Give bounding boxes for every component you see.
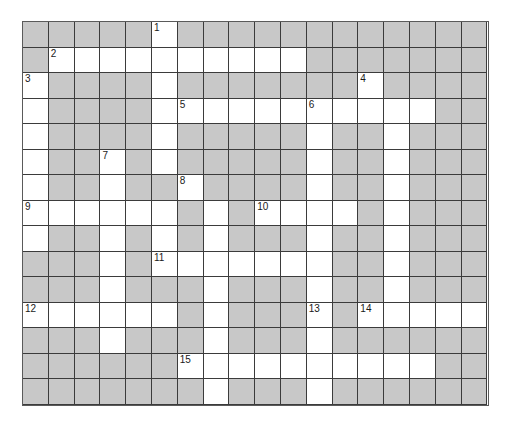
grid-cell-open[interactable] — [151, 226, 177, 252]
grid-cell-open[interactable] — [409, 353, 435, 379]
grid-cell-open[interactable] — [229, 353, 255, 379]
grid-cell-open[interactable]: 11 — [151, 251, 177, 277]
grid-cell-open[interactable] — [100, 200, 126, 226]
crossword-grid[interactable]: 123456789101112131415 — [22, 21, 487, 405]
grid-cell-open[interactable] — [151, 73, 177, 99]
grid-cell-open[interactable] — [409, 302, 435, 328]
grid-cell-open[interactable] — [74, 200, 100, 226]
grid-cell-open[interactable] — [306, 328, 332, 354]
grid-cell-open[interactable] — [177, 251, 203, 277]
grid-cell-open[interactable] — [255, 251, 281, 277]
grid-cell-open[interactable] — [306, 200, 332, 226]
grid-cell-open[interactable]: 4 — [358, 73, 384, 99]
grid-cell-open[interactable] — [280, 47, 306, 73]
grid-cell-open[interactable] — [255, 47, 281, 73]
grid-cell-open[interactable] — [151, 302, 177, 328]
grid-cell-open[interactable] — [384, 277, 410, 303]
grid-cell-open[interactable] — [23, 149, 49, 175]
grid-cell-open[interactable] — [151, 47, 177, 73]
grid-cell-open[interactable] — [151, 149, 177, 175]
grid-cell-open[interactable] — [203, 200, 229, 226]
grid-cell-open[interactable] — [384, 124, 410, 150]
grid-cell-open[interactable] — [384, 353, 410, 379]
grid-cell-open[interactable] — [74, 47, 100, 73]
grid-cell-open[interactable] — [306, 379, 332, 405]
grid-cell-open[interactable]: 6 — [306, 98, 332, 124]
grid-cell-open[interactable] — [151, 200, 177, 226]
grid-cell-open[interactable] — [384, 226, 410, 252]
grid-cell-open[interactable] — [23, 98, 49, 124]
grid-cell-open[interactable] — [280, 353, 306, 379]
grid-cell-open[interactable]: 8 — [177, 175, 203, 201]
grid-cell-open[interactable] — [435, 302, 461, 328]
grid-cell-open[interactable] — [203, 47, 229, 73]
grid-cell-open[interactable] — [74, 302, 100, 328]
grid-cell-open[interactable]: 3 — [23, 73, 49, 99]
grid-cell-open[interactable] — [306, 277, 332, 303]
grid-cell-open[interactable] — [100, 277, 126, 303]
grid-cell-open[interactable]: 10 — [255, 200, 281, 226]
grid-cell-open[interactable] — [151, 98, 177, 124]
grid-cell-open[interactable] — [203, 98, 229, 124]
grid-cell-open[interactable] — [151, 124, 177, 150]
grid-cell-open[interactable] — [177, 47, 203, 73]
grid-cell-open[interactable] — [280, 200, 306, 226]
grid-cell-open[interactable] — [306, 175, 332, 201]
grid-cell-open[interactable] — [255, 98, 281, 124]
grid-cell-open[interactable] — [384, 302, 410, 328]
grid-cell-open[interactable]: 7 — [100, 149, 126, 175]
grid-cell-open[interactable] — [384, 98, 410, 124]
grid-cell-open[interactable] — [100, 47, 126, 73]
grid-cell-open[interactable] — [23, 175, 49, 201]
grid-cell-open[interactable] — [332, 98, 358, 124]
grid-cell-open[interactable] — [255, 353, 281, 379]
grid-cell-open[interactable] — [100, 328, 126, 354]
grid-cell-open[interactable]: 15 — [177, 353, 203, 379]
grid-cell-open[interactable] — [306, 149, 332, 175]
grid-cell-open[interactable] — [358, 353, 384, 379]
grid-cell-open[interactable] — [384, 251, 410, 277]
grid-cell-open[interactable] — [306, 251, 332, 277]
grid-cell-open[interactable]: 2 — [48, 47, 74, 73]
grid-cell-open[interactable] — [384, 200, 410, 226]
grid-cell-open[interactable] — [409, 98, 435, 124]
grid-cell-open[interactable] — [48, 200, 74, 226]
grid-cell-open[interactable] — [203, 379, 229, 405]
grid-cell-open[interactable]: 12 — [23, 302, 49, 328]
grid-cell-open[interactable] — [126, 302, 152, 328]
grid-cell-open[interactable] — [229, 251, 255, 277]
grid-cell-open[interactable] — [23, 124, 49, 150]
grid-cell-open[interactable]: 14 — [358, 302, 384, 328]
grid-cell-open[interactable] — [203, 226, 229, 252]
grid-cell-open[interactable] — [203, 251, 229, 277]
grid-cell-open[interactable] — [100, 175, 126, 201]
grid-cell-open[interactable]: 1 — [151, 22, 177, 48]
grid-cell-open[interactable] — [280, 251, 306, 277]
grid-cell-open[interactable] — [461, 302, 487, 328]
grid-cell-open[interactable] — [280, 98, 306, 124]
grid-cell-open[interactable] — [203, 328, 229, 354]
grid-cell-open[interactable] — [126, 200, 152, 226]
grid-cell-open[interactable] — [48, 302, 74, 328]
grid-cell-open[interactable] — [332, 200, 358, 226]
grid-cell-open[interactable] — [332, 353, 358, 379]
grid-cell-open[interactable] — [306, 353, 332, 379]
grid-cell-open[interactable]: 5 — [177, 98, 203, 124]
grid-cell-open[interactable] — [23, 226, 49, 252]
grid-cell-open[interactable] — [229, 98, 255, 124]
grid-cell-open[interactable]: 13 — [306, 302, 332, 328]
grid-cell-open[interactable] — [306, 226, 332, 252]
grid-cell-open[interactable] — [100, 251, 126, 277]
grid-cell-open[interactable] — [384, 149, 410, 175]
grid-cell-open[interactable] — [203, 302, 229, 328]
grid-cell-open[interactable] — [358, 98, 384, 124]
grid-cell-open[interactable] — [229, 47, 255, 73]
grid-cell-open[interactable] — [203, 277, 229, 303]
grid-cell-open[interactable] — [203, 353, 229, 379]
grid-cell-open[interactable] — [384, 175, 410, 201]
grid-cell-open[interactable]: 9 — [23, 200, 49, 226]
grid-cell-open[interactable] — [100, 302, 126, 328]
grid-cell-open[interactable] — [126, 47, 152, 73]
grid-cell-open[interactable] — [306, 124, 332, 150]
grid-cell-open[interactable] — [100, 226, 126, 252]
